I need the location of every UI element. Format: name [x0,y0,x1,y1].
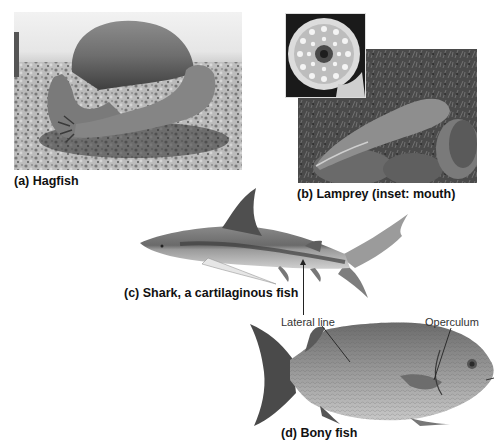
label-operculum: Operculum [425,316,479,328]
lamprey-mouth-inset [285,13,366,98]
hagfish-photo [14,12,242,170]
caption-shark: (c) Shark, a cartilaginous fish [124,286,298,300]
shark-photo [140,186,410,298]
lateral-line-arrowhead [300,259,306,265]
bony-fish-photo [250,320,498,430]
lateral-line-leader-shark [303,262,304,315]
label-lateral-line: Lateral line [281,316,335,328]
caption-hagfish: (a) Hagfish [14,174,79,188]
caption-bony-fish: (d) Bony fish [281,426,357,440]
